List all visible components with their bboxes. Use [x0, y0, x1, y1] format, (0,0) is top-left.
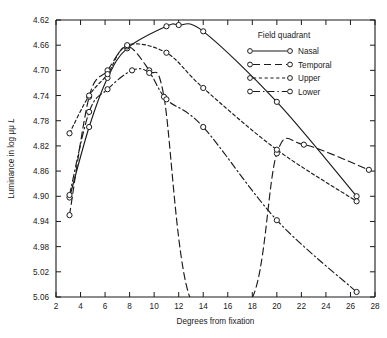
x-tick-label: 26 [346, 302, 356, 311]
data-point-nasal-4 [164, 24, 169, 29]
x-tick-label: 12 [174, 302, 184, 311]
x-tick-label: 22 [297, 302, 307, 311]
data-point-lower-1 [87, 109, 92, 114]
y-axis-label-mu: μμ [7, 123, 16, 135]
x-tick-label: 18 [248, 302, 258, 311]
x-tick-label: 20 [272, 302, 282, 311]
y-tick-label: 4.94 [33, 217, 49, 226]
data-point-lower-6 [201, 124, 206, 129]
data-point-temporal-0 [67, 213, 72, 218]
data-point-nasal-1 [87, 124, 92, 129]
legend-marker-start-temporal [248, 62, 253, 67]
x-axis-label: Degrees from fixation [177, 317, 255, 326]
y-tick-label: 4.70 [33, 66, 49, 75]
x-tick-label: 8 [127, 302, 132, 311]
chart-background [0, 0, 387, 338]
legend-marker-start-upper [248, 76, 253, 81]
legend-marker-end-upper [288, 76, 293, 81]
x-tick-label: 14 [199, 302, 209, 311]
data-point-lower-7 [274, 218, 279, 223]
data-point-upper-7 [354, 199, 359, 204]
y-axis-label: Luminance in log μμ L [7, 118, 16, 198]
legend-marker-end-temporal [288, 62, 293, 67]
x-tick-label: 24 [321, 302, 331, 311]
y-axis-label-symbol: L [7, 118, 16, 123]
data-point-lower-4 [147, 70, 152, 75]
x-tick-label: 2 [54, 302, 59, 311]
data-point-upper-6 [274, 147, 279, 152]
data-point-temporal-9 [301, 142, 306, 147]
y-tick-label: 4.90 [33, 192, 49, 201]
data-point-lower-8 [354, 289, 359, 294]
y-tick-label: 5.02 [33, 268, 49, 277]
data-point-lower-5 [164, 97, 169, 102]
legend-marker-end-lower [288, 89, 293, 94]
legend-marker-end-nasal [288, 49, 293, 54]
legend-title: Field quadrant [258, 31, 311, 40]
data-point-lower-3 [129, 68, 134, 73]
data-point-upper-0 [67, 131, 72, 136]
y-tick-label: 4.86 [33, 167, 49, 176]
legend-marker-start-nasal [248, 49, 253, 54]
x-tick-label: 10 [150, 302, 160, 311]
data-point-nasal-6 [201, 29, 206, 34]
x-tick-label: 4 [78, 302, 83, 311]
y-tick-label: 4.82 [33, 142, 49, 151]
x-tick-label: 6 [103, 302, 108, 311]
y-tick-label: 4.66 [33, 41, 49, 50]
legend-label-upper: Upper [298, 74, 321, 83]
y-tick-label: 4.98 [33, 243, 49, 252]
y-tick-label: 4.62 [33, 16, 49, 25]
data-point-temporal-10 [366, 167, 371, 172]
data-point-upper-2 [105, 72, 110, 77]
y-axis-label-prefix: Luminance in log [7, 135, 16, 199]
y-tick-label: 4.74 [33, 92, 49, 101]
data-point-upper-5 [201, 85, 206, 90]
legend-label-nasal: Nasal [298, 47, 319, 56]
data-point-upper-1 [87, 93, 92, 98]
x-tick-label: 16 [223, 302, 233, 311]
y-tick-label: 4.78 [33, 117, 49, 126]
luminance-vs-eccentricity-chart: 246810121416182022242628 4.624.664.704.7… [0, 0, 387, 338]
data-point-upper-3 [125, 43, 130, 48]
y-tick-label: 5.06 [33, 293, 49, 302]
chart-figure: 246810121416182022242628 4.624.664.704.7… [0, 0, 387, 338]
legend-label-temporal: Temporal [298, 61, 332, 70]
data-point-upper-4 [164, 50, 169, 55]
x-tick-label: 28 [370, 302, 380, 311]
data-point-nasal-5 [176, 22, 181, 27]
data-point-nasal-7 [274, 99, 279, 104]
data-point-lower-0 [67, 192, 72, 197]
data-point-nasal-8 [354, 194, 359, 199]
legend-marker-start-lower [248, 89, 253, 94]
data-point-lower-2 [105, 87, 110, 92]
legend-label-lower: Lower [298, 88, 321, 97]
